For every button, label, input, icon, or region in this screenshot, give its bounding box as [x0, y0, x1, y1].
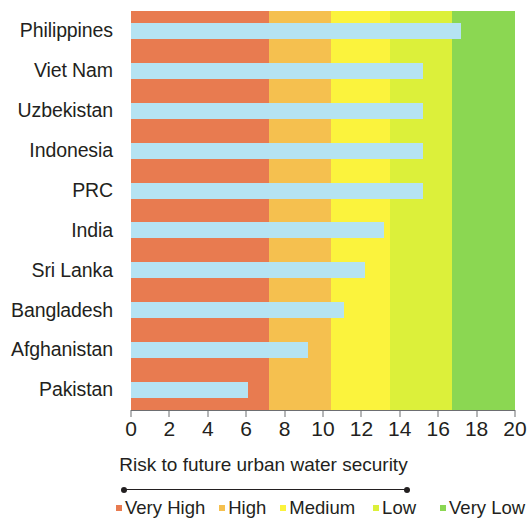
bar — [131, 302, 344, 318]
axis-tick-label: 10 — [311, 418, 334, 439]
axis-tick-label: 2 — [164, 418, 176, 439]
legend-label: Very Low — [449, 499, 525, 518]
legend-label: Medium — [289, 499, 355, 518]
bar-slot — [131, 171, 515, 211]
category-label: PRC — [0, 171, 122, 211]
category-label: India — [0, 211, 122, 251]
axis-tick-label: 18 — [465, 418, 488, 439]
axis-tick-label: 20 — [503, 418, 526, 439]
axis-tick — [361, 410, 362, 417]
bar — [131, 262, 365, 278]
rule-dot-left — [121, 487, 127, 493]
bar-slot — [131, 250, 515, 290]
category-label: Afghanistan — [0, 330, 122, 370]
category-axis-labels: PhilippinesViet NamUzbekistanIndonesiaPR… — [0, 11, 122, 410]
bar — [131, 103, 423, 119]
bar-slot — [131, 211, 515, 251]
axis-tick-label: 0 — [125, 418, 137, 439]
legend-label: Low — [382, 499, 416, 518]
legend-swatch-icon — [116, 505, 122, 511]
category-label: Viet Nam — [0, 51, 122, 91]
axis-tick — [284, 410, 285, 417]
legend-item-low[interactable]: Low — [373, 499, 416, 518]
bar — [131, 342, 308, 358]
category-label: Uzbekistan — [0, 91, 122, 131]
bar — [131, 63, 423, 79]
axis-tick — [169, 410, 170, 417]
bar-slot — [131, 11, 515, 51]
axis-tick-label: 12 — [350, 418, 373, 439]
axis-tick-label: 6 — [240, 418, 252, 439]
bar-slot — [131, 131, 515, 171]
bar-slot — [131, 370, 515, 410]
legend-item-high[interactable]: High — [219, 499, 266, 518]
axis-tick — [131, 410, 132, 417]
legend-swatch-icon — [219, 505, 225, 511]
chart-caption: Risk to future urban water security — [0, 455, 527, 474]
category-label: Philippines — [0, 11, 122, 51]
axis-tick-label: 8 — [279, 418, 291, 439]
plot-area — [131, 11, 515, 410]
legend-item-very-high[interactable]: Very High — [116, 499, 205, 518]
axis-tick — [246, 410, 247, 417]
axis-tick — [515, 410, 516, 417]
legend-swatch-icon — [373, 505, 379, 511]
axis-tick — [438, 410, 439, 417]
bar — [131, 222, 384, 238]
bar — [131, 143, 423, 159]
legend-item-medium[interactable]: Medium — [280, 499, 355, 518]
value-axis: 02468101214161820 — [131, 410, 515, 446]
legend-label: Very High — [125, 499, 205, 518]
axis-tick — [399, 410, 400, 417]
bar-slot — [131, 290, 515, 330]
legend-swatch-icon — [280, 505, 286, 511]
water-security-risk-chart: PhilippinesViet NamUzbekistanIndonesiaPR… — [0, 0, 527, 519]
axis-tick-label: 4 — [202, 418, 214, 439]
bar — [131, 23, 461, 39]
category-label: Bangladesh — [0, 290, 122, 330]
legend-divider-rule — [124, 489, 407, 490]
legend-swatch-icon — [440, 505, 446, 511]
bar — [131, 183, 423, 199]
axis-tick — [323, 410, 324, 417]
axis-tick-label: 16 — [427, 418, 450, 439]
bar-slot — [131, 91, 515, 131]
category-label: Pakistan — [0, 370, 122, 410]
bars-layer — [131, 11, 515, 410]
legend: Very HighHighMediumLowVery Low — [116, 497, 527, 519]
bar — [131, 382, 248, 398]
rule-dot-right — [404, 487, 410, 493]
legend-label: High — [228, 499, 266, 518]
legend-item-very-low[interactable]: Very Low — [440, 499, 525, 518]
axis-tick-label: 14 — [388, 418, 411, 439]
bar-slot — [131, 51, 515, 91]
bar-slot — [131, 330, 515, 370]
axis-tick — [476, 410, 477, 417]
category-label: Indonesia — [0, 131, 122, 171]
category-label: Sri Lanka — [0, 250, 122, 290]
axis-tick — [207, 410, 208, 417]
